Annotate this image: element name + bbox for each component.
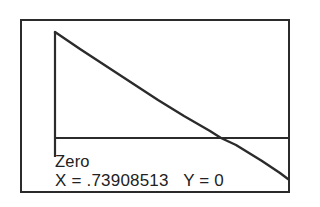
zero-status-label: Zero (55, 153, 285, 170)
calculator-screen: Zero X = .73908513 Y = 0 (20, 19, 290, 193)
zero-readout: Zero X = .73908513 Y = 0 (55, 153, 285, 190)
zero-coordinates-text: X = .73908513 Y = 0 (55, 172, 285, 189)
